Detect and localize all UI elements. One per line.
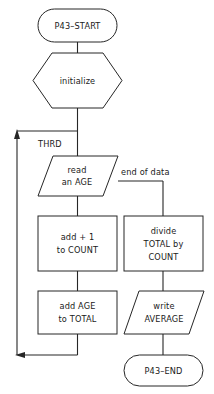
- initialize-label: initialize: [60, 76, 96, 86]
- add-total-label-line2: to TOTAL: [59, 314, 97, 324]
- node-write-average[interactable]: write AVERAGE: [124, 291, 204, 334]
- node-add-count[interactable]: add + 1 to COUNT: [38, 216, 117, 271]
- loop-label-thrd: THRD: [37, 139, 62, 149]
- divide-label-line3: COUNT: [148, 252, 179, 262]
- read-label-line1: read: [67, 165, 86, 175]
- node-end[interactable]: P43–END: [124, 355, 203, 386]
- node-add-total[interactable]: add AGE to TOTAL: [38, 291, 117, 334]
- write-label-line2: AVERAGE: [144, 314, 183, 324]
- add-count-rect-shape: [38, 216, 117, 271]
- end-terminator-label: P43–END: [144, 366, 182, 376]
- branch-label-end-of-data: end of data: [121, 167, 170, 177]
- write-label-line1: write: [153, 301, 174, 311]
- flowchart-svg: P43–START initialize THRD read an AGE en…: [0, 0, 214, 394]
- node-divide[interactable]: divide TOTAL by COUNT: [124, 216, 203, 271]
- add-count-label-line1: add + 1: [61, 232, 95, 242]
- add-total-rect-shape: [38, 291, 117, 334]
- divide-label-line1: divide: [151, 226, 177, 236]
- node-read-an-age[interactable]: read an AGE: [38, 156, 118, 196]
- node-start[interactable]: P43–START: [38, 9, 117, 42]
- node-initialize[interactable]: initialize: [33, 53, 122, 108]
- add-count-label-line2: to COUNT: [57, 245, 99, 255]
- add-total-label-line1: add AGE: [59, 301, 95, 311]
- read-label-line2: an AGE: [62, 177, 93, 187]
- divide-label-line2: TOTAL by: [143, 239, 184, 249]
- start-terminator-label: P43–START: [54, 21, 101, 31]
- write-parallelogram-shape: [124, 291, 204, 334]
- flowchart-canvas: P43–START initialize THRD read an AGE en…: [0, 0, 214, 394]
